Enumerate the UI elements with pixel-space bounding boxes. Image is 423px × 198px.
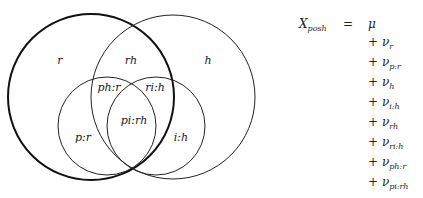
- lhs-symbol: X: [299, 17, 308, 31]
- plus-operator: +: [368, 115, 382, 129]
- region-label-ri-h: ri:h: [145, 81, 165, 94]
- venn-diagram: r rh h ph:r ri:h pi:rh p:r i:h: [0, 0, 270, 198]
- region-label-p-r: p:r: [75, 131, 92, 144]
- equation-term: + νh: [368, 75, 394, 91]
- term-subscript: ph:r: [389, 162, 406, 171]
- plus-operator: +: [368, 175, 382, 189]
- term-subscript: pi:rh: [389, 182, 408, 191]
- plus-operator: +: [368, 135, 382, 149]
- lhs-subscript: posh: [308, 24, 327, 33]
- region-label-i-h: i:h: [174, 131, 188, 144]
- term-subscript: rh: [389, 122, 398, 131]
- equation-term: + νr: [368, 35, 393, 51]
- equation-term: + νi:h: [368, 95, 400, 111]
- equation-term: + νrh: [368, 115, 398, 131]
- equation-term: + νpi:rh: [368, 175, 409, 191]
- equals-sign: =: [343, 17, 353, 31]
- term-subscript: p:r: [389, 62, 401, 71]
- region-label-pi-rh: pi:rh: [121, 114, 148, 127]
- region-label-h: h: [204, 54, 211, 67]
- equation-term: + νri:h: [368, 135, 403, 151]
- plus-operator: +: [368, 155, 382, 169]
- equation-term: + νp:r: [368, 55, 401, 71]
- term-subscript: i:h: [389, 102, 399, 111]
- region-label-rh: rh: [125, 54, 137, 67]
- region-label-ph-r: ph:r: [97, 81, 121, 94]
- plus-operator: +: [368, 35, 382, 49]
- equation-lhs: Xposh: [299, 17, 327, 33]
- equation-term: + νph:r: [368, 155, 406, 171]
- plus-operator: +: [368, 55, 382, 69]
- term-subscript: ri:h: [389, 142, 403, 151]
- plus-operator: +: [368, 75, 382, 89]
- region-label-r: r: [57, 54, 63, 67]
- equation-first-term: μ: [368, 17, 376, 31]
- plus-operator: +: [368, 95, 382, 109]
- term-subscript: h: [389, 82, 394, 91]
- term-subscript: r: [389, 42, 393, 51]
